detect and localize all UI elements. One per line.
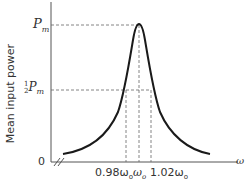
center-frequency-label: ωo [133, 166, 146, 181]
x-axis-title: ω [236, 155, 244, 166]
half-pm-label: 12 Pm [24, 80, 44, 96]
right-halfwidth-label: 1.02ωo [150, 166, 188, 181]
resonance-curve [63, 24, 210, 154]
y-axis-title: Mean input power [4, 44, 17, 144]
zero-label: 0 [38, 155, 45, 168]
pm-label: Pm [33, 16, 49, 34]
resonance-diagram: Pm 12 Pm 0 Mean input power 0.98ωo ωo 1.… [0, 0, 248, 186]
left-halfwidth-label: 0.98ωo [95, 166, 133, 181]
